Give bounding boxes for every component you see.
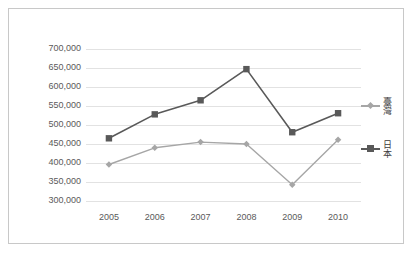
data-point-marker <box>106 161 113 168</box>
data-point-marker <box>106 135 112 141</box>
legend-label: 日本 <box>382 140 392 158</box>
data-point-marker <box>243 66 249 72</box>
series-line <box>109 69 338 138</box>
data-point-marker <box>197 139 204 146</box>
series-line <box>109 140 338 185</box>
series-taiwan <box>106 137 342 188</box>
series-layer <box>9 9 405 245</box>
series-japan <box>106 66 342 142</box>
legend-marker-diamond-icon <box>367 102 374 109</box>
data-point-marker <box>197 97 203 103</box>
legend-marker-square-icon <box>367 145 374 152</box>
data-point-marker <box>289 129 295 135</box>
legend-item-taiwan[interactable]: 臺灣 <box>361 97 405 115</box>
data-point-marker <box>151 145 158 152</box>
chart-plot-area: 700,000650,000600,000550,000500,000450,0… <box>9 9 405 245</box>
legend-swatch-icon <box>361 100 380 112</box>
data-point-marker <box>335 110 341 116</box>
legend-item-japan[interactable]: 日本 <box>361 140 405 158</box>
chart-frame: 700,000650,000600,000550,000500,000450,0… <box>8 8 404 244</box>
legend-label: 臺灣 <box>382 97 392 115</box>
data-point-marker <box>152 111 158 117</box>
legend-swatch-icon <box>361 143 380 155</box>
chart-legend: 臺灣日本 <box>361 9 405 245</box>
